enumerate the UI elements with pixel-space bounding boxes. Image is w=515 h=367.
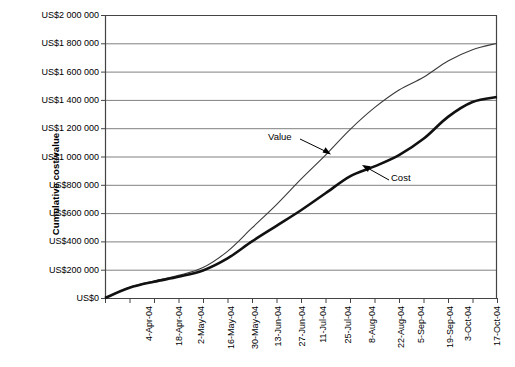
x-tick-label: 22-Aug-04: [396, 306, 406, 348]
x-axis-tick-labels: 4-Apr-0418-Apr-042-May-0416-May-0430-May…: [0, 0, 515, 367]
x-tick-label: 4-Apr-04: [144, 306, 154, 341]
cumulative-cost-value-chart: Cumulative cost/value US$0US$200 000US$4…: [0, 0, 515, 367]
x-tick-label: 2-May-04: [196, 306, 206, 344]
x-tick-label: 18-Apr-04: [174, 306, 184, 346]
cost-series-label: Cost: [391, 172, 411, 183]
x-tick-label: 11-Jul-04: [317, 306, 327, 343]
x-tick-label: 27-Jun-04: [297, 306, 307, 347]
x-tick-label: 17-Oct-04: [492, 306, 502, 346]
x-tick-label: 13-Jun-04: [272, 306, 282, 347]
x-tick-label: 8-Aug-04: [367, 306, 377, 343]
x-tick-label: 16-May-04: [226, 306, 236, 349]
x-tick-label: 5-Sep-04: [416, 306, 426, 343]
x-tick-label: 25-Jul-04: [343, 306, 353, 344]
x-tick-label: 3-Oct-04: [463, 306, 473, 341]
x-tick-label: 19-Sep-04: [445, 306, 455, 348]
x-tick-label: 30-May-04: [250, 306, 260, 349]
value-series-label: Value: [268, 131, 292, 142]
